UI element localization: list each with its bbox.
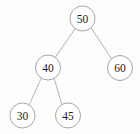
tree-edge-n40-n30 <box>29 78 41 105</box>
tree-edge-n40-n45 <box>54 78 62 104</box>
binary-search-tree-figure: 5040603045 <box>0 0 140 134</box>
tree-diagram-svg: 5040603045 <box>0 0 140 134</box>
tree-edge-n50-n60 <box>91 28 112 59</box>
tree-node-50: 50 <box>70 6 95 31</box>
tree-edge-n50-n40 <box>55 29 75 58</box>
node-label-50: 50 <box>77 13 89 25</box>
tree-node-40: 40 <box>36 55 61 80</box>
node-label-45: 45 <box>62 110 74 122</box>
tree-node-60: 60 <box>108 56 133 81</box>
node-label-30: 30 <box>17 110 29 122</box>
tree-node-45: 45 <box>56 103 81 128</box>
tree-node-30: 30 <box>10 103 35 128</box>
node-label-60: 60 <box>114 62 126 74</box>
nodes-group: 5040603045 <box>10 6 133 128</box>
node-label-40: 40 <box>42 62 54 74</box>
